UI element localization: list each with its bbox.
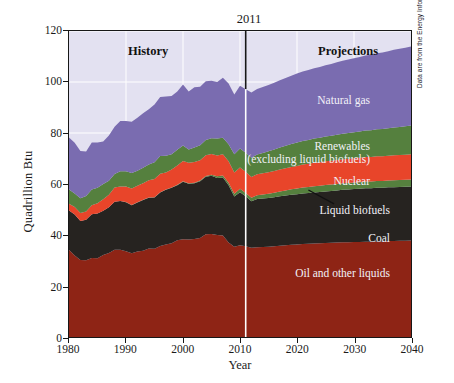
x-tick-label: 2020	[272, 343, 322, 355]
series-label-nuclear: Nuclear	[230, 175, 370, 188]
y-tick-label: 120	[24, 24, 62, 36]
series-label-renewables: Renewables (excluding liquid biofuels)	[178, 140, 370, 166]
x-tick-mark	[240, 338, 241, 343]
series-label-renewables-line1: Renewables	[178, 140, 370, 153]
x-tick-mark	[183, 338, 184, 343]
x-tick-label: 2000	[158, 343, 208, 355]
x-tick-mark	[297, 338, 298, 343]
y-tick-mark	[63, 338, 68, 339]
series-label-natural-gas: Natural gas	[214, 94, 370, 107]
series-label-liquid-biofuels: Liquid biofuels	[230, 204, 390, 217]
x-tick-mark	[412, 338, 413, 343]
divider-year-label: 2011	[237, 12, 262, 27]
x-tick-label: 1990	[100, 343, 150, 355]
y-tick-label: 20	[24, 281, 62, 293]
series-label-oil: Oil and other liquids	[206, 267, 390, 280]
y-tick-label: 100	[24, 75, 62, 87]
series-label-renewables-line2: (excluding liquid biofuels)	[178, 153, 370, 166]
energy-consumption-figure: 020406080100120 198019902000201020202030…	[0, 0, 454, 383]
x-tick-mark	[355, 338, 356, 343]
x-axis-title: Year	[68, 358, 412, 373]
series-label-coal: Coal	[230, 232, 390, 245]
x-tick-label: 2010	[215, 343, 265, 355]
attribution-note: Data are from the Energy Information Adm…	[416, 0, 423, 88]
x-tick-mark	[68, 338, 69, 343]
x-tick-label: 2030	[330, 343, 380, 355]
projections-label: Projections	[318, 44, 378, 59]
x-tick-label: 2040	[387, 343, 437, 355]
x-tick-mark	[125, 338, 126, 343]
history-label: History	[128, 44, 168, 59]
y-tick-label: 0	[24, 332, 62, 344]
y-axis-title: Quadrillion Btu	[21, 122, 36, 262]
x-tick-label: 1980	[43, 343, 93, 355]
